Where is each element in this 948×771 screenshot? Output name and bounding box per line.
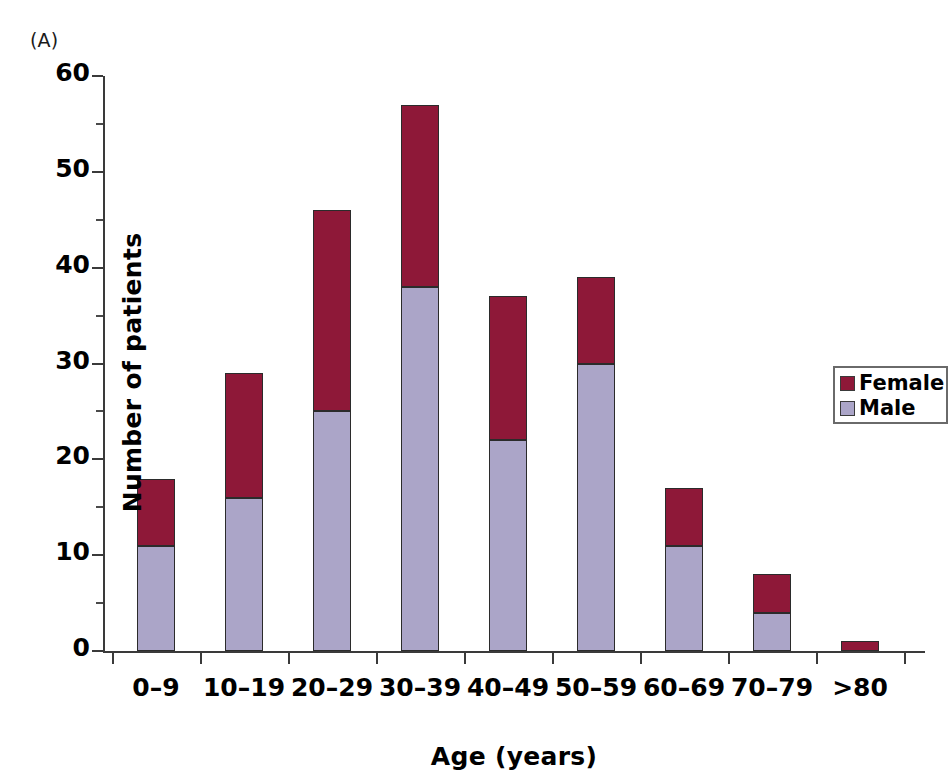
bar-group — [841, 76, 879, 651]
y-tick-major — [92, 363, 103, 365]
y-tick-minor — [96, 602, 103, 604]
bar-group — [225, 76, 263, 651]
y-tick-label: 20 — [30, 441, 90, 470]
y-tick-label: 10 — [30, 537, 90, 566]
chart-legend: FemaleMale — [833, 366, 948, 424]
legend-label-male: Male — [859, 398, 916, 419]
bar-segment-female — [577, 277, 615, 363]
bar-group — [665, 76, 703, 651]
x-tick — [112, 651, 114, 664]
plot-area: 0–910–1920–2930–3940–4950–5960–6970–79>8… — [103, 76, 925, 651]
y-axis-line — [103, 76, 105, 652]
y-tick-major — [92, 267, 103, 269]
bar-group — [313, 76, 351, 651]
y-tick-minor — [96, 410, 103, 412]
x-axis-title: Age (years) — [103, 742, 925, 771]
x-tick — [552, 651, 554, 664]
bar-segment-female — [401, 105, 439, 287]
x-tick — [376, 651, 378, 664]
y-tick-label: 30 — [30, 346, 90, 375]
bar-segment-male — [489, 440, 527, 651]
bar-segment-male — [313, 411, 351, 651]
x-category-label: >80 — [800, 673, 920, 702]
legend-item-female: Female — [840, 371, 942, 396]
y-tick-major — [92, 458, 103, 460]
bar-segment-female — [841, 641, 879, 651]
bar-segment-male — [225, 498, 263, 651]
legend-label-female: Female — [859, 373, 944, 394]
x-axis-line — [103, 651, 925, 653]
bar-segment-male — [753, 613, 791, 651]
y-tick-major — [92, 554, 103, 556]
bar-segment-female — [753, 574, 791, 612]
bar-group — [577, 76, 615, 651]
legend-swatch-female — [840, 376, 855, 391]
y-tick-major — [92, 171, 103, 173]
legend-item-male: Male — [840, 396, 942, 421]
x-tick — [288, 651, 290, 664]
x-tick — [464, 651, 466, 664]
bar-group — [753, 76, 791, 651]
bar-segment-female — [313, 210, 351, 411]
panel-label: (A) — [30, 29, 58, 51]
bar-group — [401, 76, 439, 651]
bar-segment-female — [225, 373, 263, 498]
y-tick-minor — [96, 315, 103, 317]
y-axis-title: Number of patients — [118, 63, 147, 683]
y-tick-label: 60 — [30, 58, 90, 87]
x-tick — [904, 651, 906, 664]
y-tick-major — [92, 75, 103, 77]
x-tick — [200, 651, 202, 664]
y-tick-minor — [96, 506, 103, 508]
y-tick-label: 50 — [30, 154, 90, 183]
bar-segment-female — [665, 488, 703, 546]
x-tick — [640, 651, 642, 664]
x-tick — [816, 651, 818, 664]
bar-segment-male — [577, 364, 615, 652]
bar-segment-male — [401, 287, 439, 651]
x-tick — [728, 651, 730, 664]
y-tick-label: 40 — [30, 250, 90, 279]
y-tick-minor — [96, 123, 103, 125]
bar-segment-male — [665, 546, 703, 651]
bar-group — [489, 76, 527, 651]
legend-swatch-male — [840, 401, 855, 416]
y-tick-major — [92, 650, 103, 652]
y-tick-label: 0 — [30, 633, 90, 662]
y-tick-minor — [96, 219, 103, 221]
bar-segment-female — [489, 296, 527, 440]
